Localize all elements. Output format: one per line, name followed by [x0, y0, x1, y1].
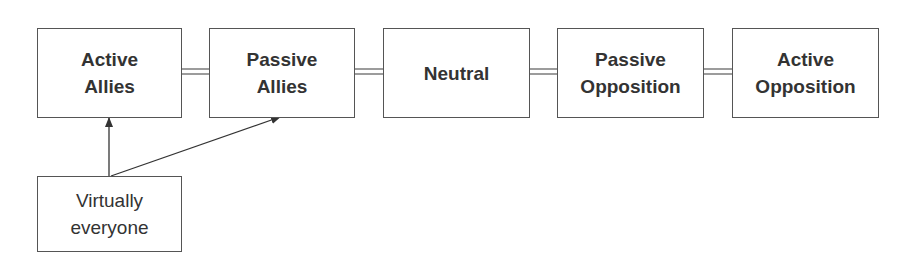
- edge-passive-allies-neutral: [354, 69, 383, 74]
- edge-active-allies-passive-allies: [181, 69, 209, 74]
- arrow-to-passive-allies: [111, 117, 280, 176]
- node-active-allies: Active Allies: [37, 28, 182, 118]
- node-label: Passive Opposition: [580, 46, 680, 100]
- node-virtually-everyone: Virtually everyone: [37, 176, 182, 252]
- node-active-opposition: Active Opposition: [732, 28, 879, 118]
- edge-neutral-passive-opposition: [529, 69, 558, 74]
- node-label: Active Allies: [81, 46, 138, 100]
- node-label: Passive Allies: [247, 46, 318, 100]
- node-label: Virtually everyone: [70, 187, 148, 241]
- node-neutral: Neutral: [383, 28, 530, 118]
- node-passive-opposition: Passive Opposition: [557, 28, 704, 118]
- node-label: Active Opposition: [755, 46, 855, 100]
- node-passive-allies: Passive Allies: [209, 28, 355, 118]
- node-label: Neutral: [424, 60, 489, 87]
- edge-passive-opposition-active-opposition: [703, 69, 732, 74]
